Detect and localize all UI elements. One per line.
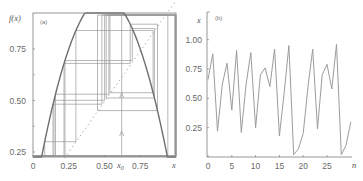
x-tick-label: 0.75: [132, 161, 149, 171]
x-tick-label: 10: [251, 161, 261, 171]
x-axis-title: x: [171, 160, 176, 170]
y-tick-label: 0.75: [185, 64, 202, 74]
y-axis-title: f(x): [9, 13, 21, 23]
y-tick-label: 0.75: [9, 44, 26, 54]
cobweb-path: [33, 15, 176, 157]
x-tick-label: 0.50: [96, 161, 113, 171]
x0-label: x0: [116, 160, 124, 171]
panel-label-b: (b): [215, 15, 222, 21]
figure: 00.250.500.75 0.250.500.75 f(x) (a) x x0…: [0, 0, 363, 181]
x-tick-label: 20: [298, 161, 308, 171]
y-tick-label: 0.25: [185, 123, 202, 133]
y-tick-label: 0.50: [9, 96, 26, 106]
x-tick-label: 0.25: [60, 161, 77, 171]
y-axis-ticks: 0.250.500.75: [9, 44, 35, 157]
y-tick-label: 1.00: [185, 35, 202, 45]
x-tick-label: 0: [31, 161, 36, 171]
panel-label-a: (a): [40, 19, 47, 25]
y-tick-label: 0.25: [9, 147, 26, 157]
x0-subscript: 0: [121, 165, 124, 171]
series-line-xn: [208, 44, 351, 154]
y-axis-title: x: [196, 15, 201, 25]
x-tick-label: 5: [229, 161, 234, 171]
y-axis-ticks: 0.250.500.751.00: [185, 12, 210, 133]
x-axis-title: n: [352, 160, 356, 170]
x-tick-label: 25: [322, 161, 332, 171]
cobweb-lines: [33, 15, 176, 157]
x-tick-label: 0: [206, 161, 211, 171]
x-tick-label: 15: [275, 161, 285, 171]
panel-b-time-series: 0510152025 0.250.500.751.00 x (b) n: [185, 12, 356, 171]
panel-a-cobweb-plot: 00.250.500.75 0.250.500.75 f(x) (a) x x0: [9, 1, 176, 171]
y-tick-label: 0.50: [185, 93, 202, 103]
